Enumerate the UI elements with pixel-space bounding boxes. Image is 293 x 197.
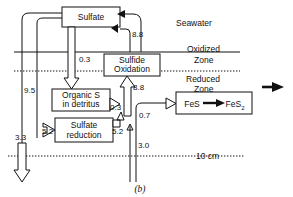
fes-inflow-path (136, 103, 168, 140)
reduced-zone-label-line1: Reduced (186, 74, 220, 84)
sulfur-cycle-diagram: Sulfate 8.8 0.3 9.5 Sulfide Oxidation 8.… (0, 0, 293, 197)
flux-label-9.5: 9.5 (24, 86, 36, 95)
flux-label-5.2-right: 5.2 (112, 127, 124, 136)
sulfate-to-organic-hollow-arrow (64, 27, 79, 89)
oxidized-zone-label-line2: Zone (194, 55, 214, 65)
sulfide-upward-hollow-arrow (120, 76, 135, 116)
seawater-label: Seawater (176, 18, 212, 28)
flux-label-8.8-lower: 8.8 (133, 83, 145, 92)
sulfate-reduction-label-line1: Sulfate (71, 120, 98, 130)
fes-inflow-arrowhead (166, 98, 176, 109)
flux-label-0.7: 0.7 (139, 111, 151, 120)
flux-label-3.0: 3.0 (138, 141, 150, 150)
burial-left-hollow-arrow (14, 143, 30, 182)
flux-label-8.8-upper: 8.8 (132, 30, 144, 39)
flux-label-0.3-sulfate-organic: 0.3 (79, 55, 91, 64)
sulfide-to-sulfate-inner-path (120, 29, 130, 52)
flux-label-0.3-organic: 0.3 (110, 103, 122, 112)
flux-label-3.3: 3.3 (15, 133, 27, 142)
sulfate-reduction-outflow-arrow (113, 112, 124, 127)
reduced-zone-label-line2: Zone (194, 84, 214, 94)
panel-label: (b) (134, 184, 145, 195)
flux-label-5.2-left: 5.2 (42, 127, 54, 136)
organic-s-label-line2: in detritus (63, 99, 100, 109)
oxidized-zone-label-line1: Oxidized (187, 44, 220, 54)
sulfide-oxidation-label-line2: Oxidation (114, 64, 150, 74)
depth-marker-label: 10 cm (196, 151, 219, 161)
export-right-arrow-icon (262, 82, 284, 92)
sulfate-reduction-label-line2: reduction (67, 130, 102, 140)
pyrite-label-fes: FeS (184, 99, 200, 109)
sulfate-box-label: Sulfate (78, 12, 105, 22)
